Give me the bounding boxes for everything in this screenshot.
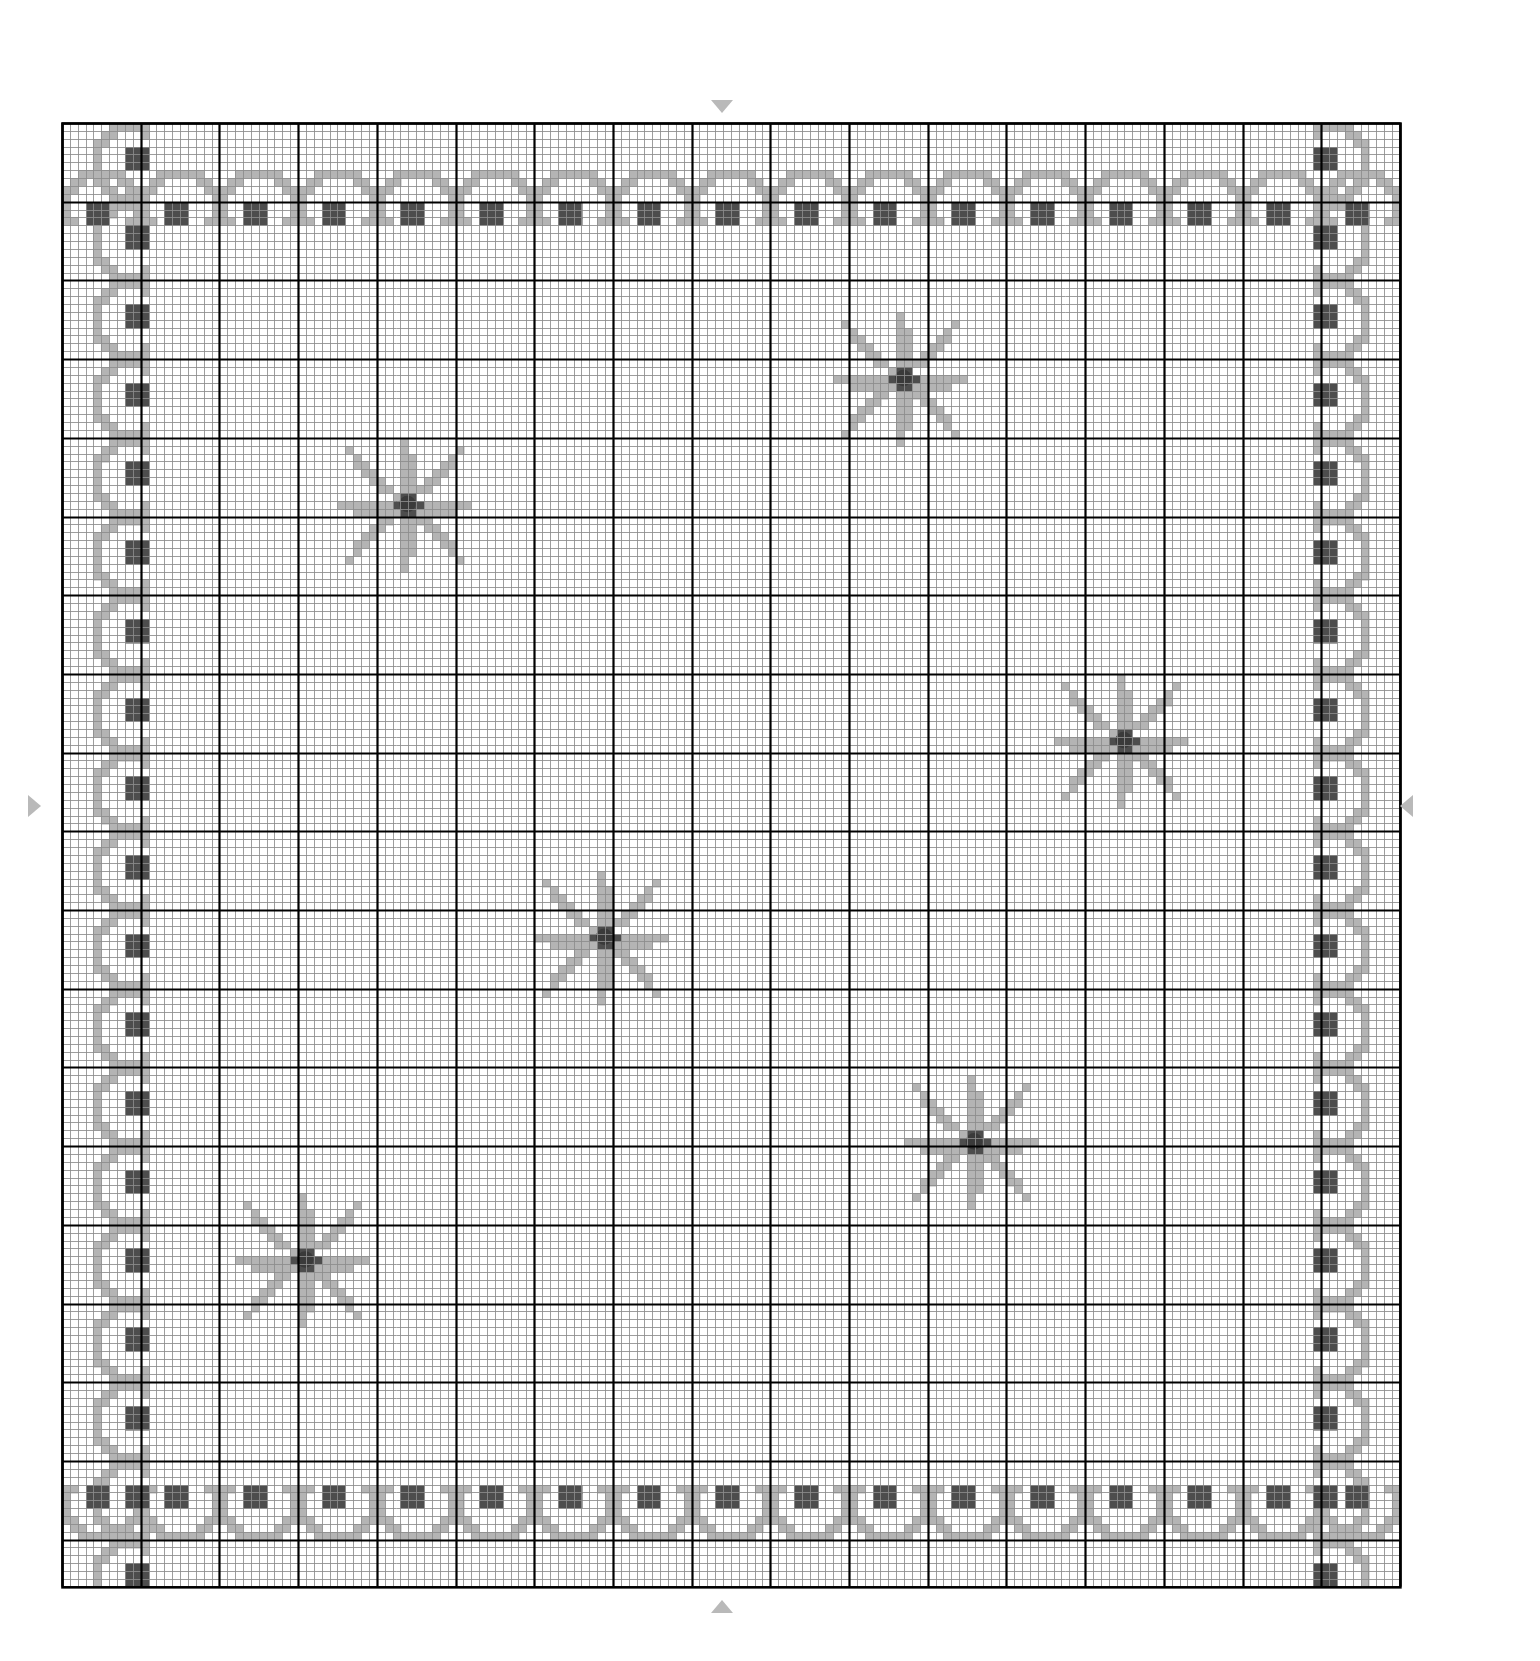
right-center-marker	[1400, 795, 1413, 817]
pattern-grid-canvas	[0, 0, 1540, 1661]
left-center-marker	[28, 795, 41, 817]
bottom-center-marker	[711, 1600, 733, 1613]
cross-stitch-chart	[0, 0, 1540, 1661]
top-center-marker	[711, 100, 733, 113]
